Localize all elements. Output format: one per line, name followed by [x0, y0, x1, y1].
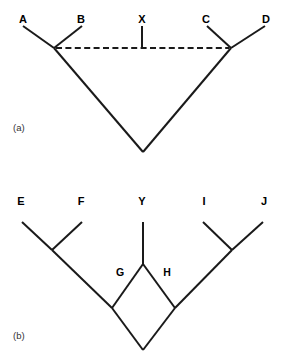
panel-a-caption: (a) [13, 122, 25, 133]
branch-b-tip-f [52, 222, 82, 250]
node-label-g: G [113, 267, 127, 278]
panel-b-branch-lines [0, 182, 283, 364]
branch-a-tip-b [54, 26, 82, 48]
taxon-label-a: A [13, 13, 33, 25]
panel-a-cladogram: A B X C D (a) [0, 0, 283, 182]
branch-b-right-root [143, 308, 175, 350]
taxon-label-i: I [194, 195, 214, 207]
node-label-h: H [160, 267, 174, 278]
taxon-label-c: C [196, 13, 216, 25]
branch-a-nodecd-root [143, 48, 231, 152]
taxon-label-f: F [71, 195, 91, 207]
branch-a-tip-d [231, 26, 265, 48]
branch-a-tip-a [23, 26, 54, 48]
taxon-label-j: J [254, 195, 274, 207]
figure-root: A B X C D (a) [0, 0, 283, 364]
branch-a-tip-c [207, 26, 231, 48]
branch-b-nodeef-left [52, 250, 112, 308]
branch-b-nodeij-right [175, 250, 232, 308]
panel-a-branch-lines [0, 0, 283, 182]
taxon-label-x: X [132, 13, 152, 25]
branch-b-left-root [112, 308, 143, 350]
branch-b-tip-e [22, 222, 52, 250]
panel-b-caption: (b) [13, 330, 25, 341]
taxon-label-d: D [256, 13, 276, 25]
taxon-label-y: Y [132, 195, 152, 207]
taxon-label-b: B [71, 13, 91, 25]
branch-b-tip-j [232, 222, 263, 250]
branch-a-nodeab-root [54, 48, 143, 152]
taxon-label-e: E [11, 195, 31, 207]
panel-b-cladogram: E F Y I J G H (b) [0, 182, 283, 364]
branch-b-tip-i [203, 222, 232, 250]
